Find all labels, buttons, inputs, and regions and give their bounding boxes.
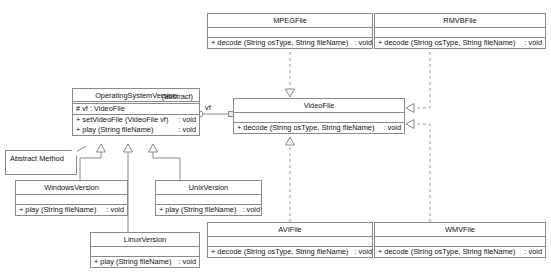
association-osv-videofile xyxy=(197,111,234,117)
realization-avifile-videofile xyxy=(286,137,295,222)
operation-signature: + decode (String osType, String fileName… xyxy=(378,247,515,257)
operation-row: + decode (String osType, String fileName… xyxy=(211,247,369,257)
class-box-linuxversion[interactable]: LinuxVersion + play (String fileName) : … xyxy=(90,232,200,268)
operation-row: + play (String fileName) : void xyxy=(94,257,196,267)
operation-row: + play (String fileName) : void xyxy=(159,205,258,215)
class-attributes-windowsversion xyxy=(16,195,127,205)
class-operations-mpegfile: + decode (String osType, String fileName… xyxy=(208,38,372,48)
operation-signature: + play (String fileName) xyxy=(94,257,171,267)
class-operations-linuxversion: + play (String fileName) : void xyxy=(91,257,199,267)
class-operations-windowsversion: + play (String fileName) : void xyxy=(16,205,127,215)
class-operations-unixversion: + play (String fileName) : void xyxy=(156,205,261,215)
operation-signature: + decode (String osType, String fileName… xyxy=(237,123,374,133)
generalization-windowsversion-osv xyxy=(80,144,106,180)
class-box-windowsversion[interactable]: WindowsVersion + play (String fileName) … xyxy=(15,180,128,216)
note-anchor-line xyxy=(76,146,86,152)
operation-signature: + play (String fileName) xyxy=(19,205,96,215)
attribute-row: # vf : VideoFile xyxy=(76,104,196,114)
operation-return-type: : void xyxy=(172,115,196,125)
generalization-unixversion-osv xyxy=(149,144,181,180)
class-operations-videofile: + decode (String osType, String fileName… xyxy=(234,123,404,133)
class-attributes-unixversion xyxy=(156,195,261,205)
operation-signature: + decode (String osType, String fileName… xyxy=(211,38,348,48)
operation-row: + decode (String osType, String fileName… xyxy=(237,123,401,133)
note-text: Abstract Method xyxy=(10,154,64,163)
class-box-mpegfile[interactable]: MPEGFile + decode (String osType, String… xyxy=(207,13,373,49)
realization-wmvfile-videofile xyxy=(406,120,430,223)
operation-return-type: : void xyxy=(377,123,401,133)
uml-class-diagram: MPEGFile + decode (String osType, String… xyxy=(0,0,551,272)
operation-signature: + setVideoFile (VideoFile vf) xyxy=(76,115,168,125)
association-label-vf: vf xyxy=(205,103,211,112)
operation-row: + play (String fileName) : void xyxy=(76,125,196,135)
class-box-wmvfile[interactable]: WMVFile + decode (String osType, String … xyxy=(374,222,546,258)
note-fold-corner-icon xyxy=(71,150,77,156)
class-name-windowsversion: WindowsVersion xyxy=(16,181,127,195)
operation-signature: + decode (String osType, String fileName… xyxy=(211,247,348,257)
class-attributes-rmvbfile xyxy=(375,28,545,38)
class-attributes-mpegfile xyxy=(208,28,372,38)
class-name-mpegfile: MPEGFile xyxy=(208,14,372,28)
realization-mpegfile-videofile xyxy=(286,52,295,97)
operation-signature: + play (String fileName) xyxy=(159,205,236,215)
operation-return-type: : void xyxy=(172,257,196,267)
operation-row: + decode (String osType, String fileName… xyxy=(378,38,542,48)
operation-return-type: : void xyxy=(518,38,542,48)
class-box-avifile[interactable]: AVIFile + decode (String osType, String … xyxy=(207,222,373,258)
operation-row: + decode (String osType, String fileName… xyxy=(378,247,542,257)
operation-row: + setVideoFile (VideoFile vf) : void xyxy=(76,115,196,125)
operation-return-type: : void xyxy=(348,38,372,48)
operation-row: + decode (String osType, String fileName… xyxy=(211,38,369,48)
operation-return-type: : void xyxy=(236,205,260,215)
operation-return-type: : void xyxy=(100,205,124,215)
operation-return-type: : void xyxy=(172,125,196,135)
class-attributes-wmvfile xyxy=(375,237,545,247)
class-attributes-operatingsystemversion: # vf : VideoFile xyxy=(73,104,199,115)
operation-return-type: : void xyxy=(348,247,372,257)
class-name-unixversion: UnixVersion xyxy=(156,181,261,195)
class-name-rmvbfile: RMVBFile xyxy=(375,14,545,28)
class-name-linuxversion: LinuxVersion xyxy=(91,233,199,247)
class-box-operatingsystemversion[interactable]: OperatingSystemVersion (abstract) # vf :… xyxy=(72,88,200,136)
class-box-videofile[interactable]: VideoFile + decode (String osType, Strin… xyxy=(233,98,405,134)
class-attributes-avifile xyxy=(208,237,372,247)
class-name-wmvfile: WMVFile xyxy=(375,223,545,237)
class-operations-rmvbfile: + decode (String osType, String fileName… xyxy=(375,38,545,48)
class-name-videofile: VideoFile xyxy=(234,99,404,113)
class-operations-avifile: + decode (String osType, String fileName… xyxy=(208,247,372,257)
realization-rmvbfile-videofile xyxy=(406,52,430,113)
operation-row: + play (String fileName) : void xyxy=(19,205,124,215)
class-name-avifile: AVIFile xyxy=(208,223,372,237)
operation-return-type: : void xyxy=(518,247,542,257)
class-operations-wmvfile: + decode (String osType, String fileName… xyxy=(375,247,545,257)
class-operations-operatingsystemversion: + setVideoFile (VideoFile vf) : void + p… xyxy=(73,115,199,135)
class-attributes-linuxversion xyxy=(91,247,199,257)
class-box-unixversion[interactable]: UnixVersion + play (String fileName) : v… xyxy=(155,180,262,216)
operation-signature: + decode (String osType, String fileName… xyxy=(378,38,515,48)
class-name-operatingsystemversion: OperatingSystemVersion xyxy=(73,89,199,102)
class-attributes-videofile xyxy=(234,113,404,123)
class-box-rmvbfile[interactable]: RMVBFile + decode (String osType, String… xyxy=(374,13,546,49)
note-abstract-method[interactable]: Abstract Method xyxy=(5,150,77,175)
operation-signature: + play (String fileName) xyxy=(76,125,153,135)
